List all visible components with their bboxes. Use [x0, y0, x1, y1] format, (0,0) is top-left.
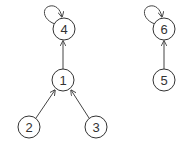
node-2: 2	[18, 116, 40, 138]
graph-canvas: 1 2 3 4 5 6	[0, 0, 188, 150]
node-5-label: 5	[160, 73, 167, 88]
node-6: 6	[153, 18, 175, 40]
node-4: 4	[53, 18, 75, 40]
node-4-label: 4	[60, 22, 67, 37]
node-3: 3	[85, 116, 107, 138]
edge-2-to-1	[36, 90, 55, 118]
node-2-label: 2	[25, 120, 32, 135]
edge-3-to-1	[71, 90, 89, 118]
node-5: 5	[153, 69, 175, 91]
node-6-label: 6	[160, 22, 167, 37]
node-1-label: 1	[59, 73, 66, 88]
node-3-label: 3	[92, 120, 99, 135]
node-1: 1	[52, 69, 74, 91]
